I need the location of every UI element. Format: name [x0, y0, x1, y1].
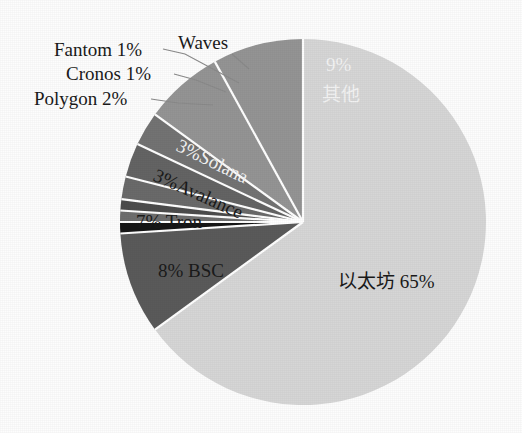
pie-chart-page: 以太坊 65%9%其他WavesFantom 1%Cronos 1%Polygo… [0, 0, 522, 433]
slice-label-其他-secondary: 其他 [322, 84, 360, 105]
slice-label-bsc: 8% BSC [158, 260, 224, 281]
slice-label-tron: 7% Tron [136, 211, 202, 232]
slice-label-fantom: Fantom 1% [54, 39, 142, 60]
slice-label-polygon: Polygon 2% [34, 88, 128, 109]
slice-label-cronos: Cronos 1% [66, 63, 151, 84]
slice-label-以太坊: 以太坊 65% [338, 271, 435, 292]
pie-chart: 以太坊 65%9%其他WavesFantom 1%Cronos 1%Polygo… [0, 0, 522, 433]
slice-label-waves: Waves [178, 32, 228, 53]
slice-label-其他: 9% [326, 54, 352, 75]
